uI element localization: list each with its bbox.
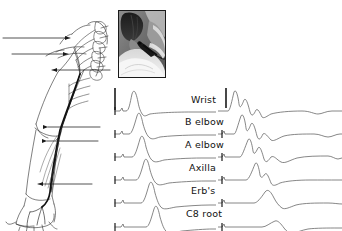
waveform-a-elbow — [115, 136, 216, 162]
waveform-b-elbow — [115, 113, 216, 139]
erbs-point-stimulation-photo — [118, 10, 166, 78]
waveform-axilla — [115, 159, 216, 185]
arm-brachial-plexus-diagram — [0, 8, 118, 231]
waveform-c8-root-right — [218, 221, 342, 231]
waveform-b-elbow-right — [218, 115, 342, 141]
waveform-wrist-right — [218, 91, 342, 118]
waveform-erbs — [115, 182, 216, 209]
cmap-trace-column-left — [112, 86, 216, 231]
nerve-conduction-study-figure: Wrist B elbow A elbow Axilla Erb's C8 ro… — [0, 0, 342, 231]
waveform-wrist — [115, 91, 216, 116]
cmap-trace-column-right — [218, 86, 342, 231]
waveform-erbs-right — [218, 190, 342, 208]
leader-lines — [3, 38, 110, 184]
waveform-c8-root — [115, 206, 216, 231]
waveform-axilla-right — [218, 163, 342, 185]
waveform-a-elbow-right — [218, 139, 342, 163]
